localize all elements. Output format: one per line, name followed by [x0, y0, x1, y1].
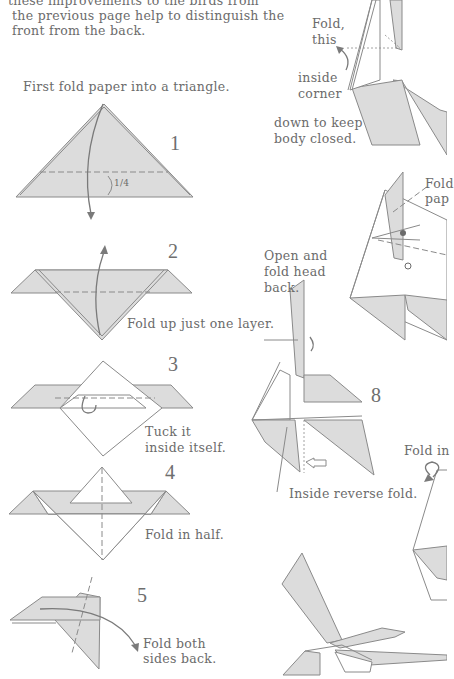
step-9-diagram [413, 462, 447, 600]
step-2-instruction: Fold up just one layer. [127, 316, 274, 331]
step-8-instruction: Inside reverse fold. [289, 486, 418, 501]
note-line-5: down to keep [274, 115, 363, 130]
step-5-instruction-2: sides back. [143, 651, 217, 666]
step-5-number: 5 [137, 585, 147, 605]
step-1-instruction: First fold paper into a triangle. [23, 79, 230, 94]
step-6-instruction-1: Fold [425, 176, 454, 191]
note-line-1: Fold, [312, 16, 345, 31]
step-3-instruction-2: inside itself. [145, 440, 226, 455]
step-1-fraction-label: 1/4 [114, 176, 129, 191]
note-line-6: body closed. [274, 131, 356, 146]
step-6-instruction-2: pap [425, 191, 449, 206]
note-line-4: corner [298, 86, 342, 101]
step-8-diagram [252, 280, 374, 492]
intro-line-2: the previous page help to distinguish th… [12, 8, 284, 23]
intro-line-3: front from the back. [12, 23, 146, 38]
final-bird-diagram [282, 553, 447, 675]
step-3-instruction-1: Tuck it [145, 424, 191, 439]
step-2-number: 2 [168, 241, 178, 261]
step-1-number: 1 [170, 133, 180, 153]
step-4-instruction: Fold in half. [145, 527, 224, 542]
intro-line-1: these improvements to the birds from [8, 0, 259, 8]
step-7-instruction-1: Open and [264, 248, 328, 263]
step-1-diagram [16, 104, 193, 220]
note-line-3: inside [298, 70, 338, 85]
note-line-2: this [312, 32, 337, 47]
step-3-number: 3 [168, 354, 178, 374]
step-9-instruction: Fold in [404, 443, 450, 458]
step-4-diagram [9, 467, 190, 560]
step-7-instruction-2: fold head [264, 264, 326, 279]
step-4-number: 4 [165, 462, 175, 482]
step-5-diagram [10, 577, 139, 669]
step-5-instruction-1: Fold both [143, 636, 206, 651]
step-8-number: 8 [371, 385, 381, 405]
step-7-instruction-3: back. [264, 280, 300, 295]
